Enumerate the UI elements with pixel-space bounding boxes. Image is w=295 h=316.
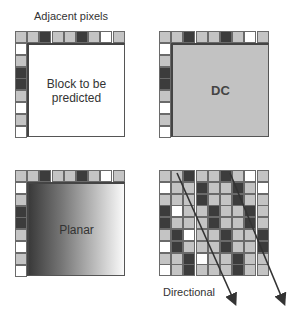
predicted-pixel	[196, 264, 208, 276]
predicted-pixel	[208, 182, 220, 194]
predicted-pixel	[208, 253, 220, 265]
adjacent-pixel-top	[88, 31, 100, 43]
planar-block: Planar	[27, 182, 125, 276]
predicted-pixel	[220, 205, 232, 217]
predicted-pixel	[244, 205, 256, 217]
predicted-pixel	[232, 217, 244, 229]
predicted-pixel	[159, 182, 171, 194]
adjacent-pixel-left	[159, 102, 171, 114]
directional-label: Directional	[163, 286, 215, 298]
adjacent-pixel-left	[15, 229, 27, 241]
predicted-pixel	[159, 241, 171, 253]
adjacent-pixel-left	[15, 241, 27, 253]
block-label: Block to be predicted	[47, 77, 107, 105]
adjacent-pixel-top	[232, 31, 244, 43]
predicted-pixel	[208, 229, 220, 241]
adjacent-pixel-left	[159, 114, 171, 126]
predicted-pixel	[244, 194, 256, 206]
adjacent-pixel-left	[15, 194, 27, 206]
predicted-pixel	[208, 264, 220, 276]
adjacent-pixel-top	[64, 170, 76, 182]
adjacent-pixel-left	[15, 206, 27, 218]
predicted-pixel	[244, 241, 256, 253]
planar-label: Planar	[59, 223, 94, 237]
predicted-pixel	[159, 205, 171, 217]
adjacent-pixel-top	[27, 170, 39, 182]
adjacent-pixel-left	[159, 126, 171, 138]
adjacent-pixel-left	[159, 67, 171, 79]
predicted-pixel	[171, 205, 183, 217]
predicted-pixel	[159, 217, 171, 229]
predicted-pixel	[196, 182, 208, 194]
predicted-pixel	[257, 229, 269, 241]
adjacent-pixel-top	[15, 170, 27, 182]
predicted-pixel	[257, 253, 269, 265]
adjacent-pixel-left	[15, 114, 27, 126]
adjacent-pixel-left	[15, 78, 27, 90]
adjacent-pixel-top	[76, 170, 88, 182]
predicted-pixel	[232, 253, 244, 265]
adjacent-pixel-top	[113, 31, 125, 43]
predicted-pixel	[183, 217, 195, 229]
adjacent-pixel-top	[64, 31, 76, 43]
predicted-pixel	[220, 241, 232, 253]
predicted-pixel	[183, 229, 195, 241]
adjacent-pixel-top	[15, 31, 27, 43]
adjacent-pixel-top	[208, 31, 220, 43]
adjacent-pixel-left	[15, 182, 27, 194]
predicted-pixel	[208, 217, 220, 229]
predicted-pixel	[159, 194, 171, 206]
adjacent-pixel-top	[257, 31, 269, 43]
adjacent-pixel-left	[159, 55, 171, 67]
adjacent-pixel-top	[39, 170, 51, 182]
predicted-pixel	[232, 170, 244, 182]
predicted-pixel	[171, 182, 183, 194]
predicted-pixel	[244, 253, 256, 265]
adjacent-pixel-left	[15, 90, 27, 102]
adjacent-pixel-left	[15, 253, 27, 265]
predicted-pixel	[244, 170, 256, 182]
dc-mode-panel: DC	[159, 31, 269, 137]
predicted-pixel	[183, 253, 195, 265]
predicted-pixel	[183, 182, 195, 194]
dc-label: DC	[211, 83, 230, 98]
adjacent-pixel-top	[52, 170, 64, 182]
block-to-be-predicted-panel: Block to be predicted	[15, 31, 125, 137]
adjacent-pixel-top	[39, 31, 51, 43]
predicted-pixel	[220, 253, 232, 265]
predicted-pixel	[208, 205, 220, 217]
predicted-pixel	[171, 264, 183, 276]
predicted-pixel	[244, 217, 256, 229]
predicted-pixel	[159, 170, 171, 182]
predicted-pixel	[208, 194, 220, 206]
predicted-pixel	[257, 264, 269, 276]
predicted-pixel	[183, 205, 195, 217]
adjacent-pixel-left	[15, 67, 27, 79]
predicted-pixel	[159, 264, 171, 276]
predicted-pixel	[171, 217, 183, 229]
dc-block: DC	[171, 43, 269, 137]
predicted-pixel	[232, 241, 244, 253]
predicted-pixel	[232, 194, 244, 206]
predicted-pixel	[232, 264, 244, 276]
predicted-pixel	[220, 170, 232, 182]
predicted-pixel	[232, 205, 244, 217]
predicted-pixel	[208, 170, 220, 182]
planar-mode-panel: Planar	[15, 170, 125, 276]
predicted-pixel	[220, 229, 232, 241]
predicted-pixel	[244, 182, 256, 194]
predicted-pixel	[257, 205, 269, 217]
adjacent-pixels-title: Adjacent pixels	[34, 10, 108, 22]
predicted-pixel	[220, 194, 232, 206]
predicted-pixel	[159, 229, 171, 241]
predicted-pixel	[183, 241, 195, 253]
predicted-pixel	[196, 241, 208, 253]
predicted-pixel	[171, 241, 183, 253]
predicted-pixel	[257, 241, 269, 253]
predicted-pixel	[220, 182, 232, 194]
predicted-pixel	[183, 170, 195, 182]
adjacent-pixel-top	[196, 31, 208, 43]
adjacent-pixel-top	[113, 170, 125, 182]
adjacent-pixel-left	[15, 126, 27, 138]
predicted-pixel	[257, 217, 269, 229]
